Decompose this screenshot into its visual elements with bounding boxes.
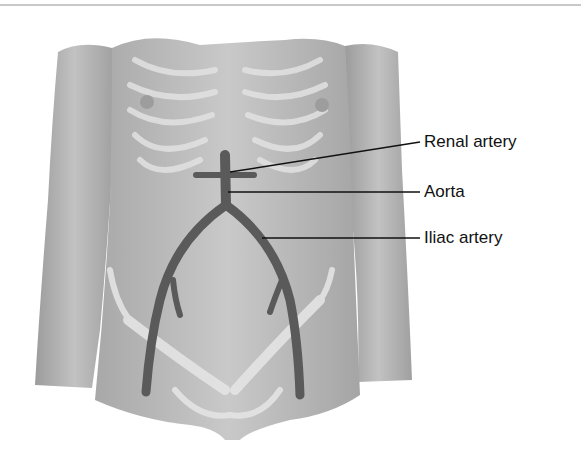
right-nipple	[315, 98, 329, 112]
label-aorta: Aorta	[424, 183, 465, 200]
label-renal-artery: Renal artery	[424, 133, 517, 150]
aorta	[225, 155, 226, 205]
label-iliac-artery: Iliac artery	[424, 229, 502, 246]
left-nipple	[140, 95, 154, 109]
